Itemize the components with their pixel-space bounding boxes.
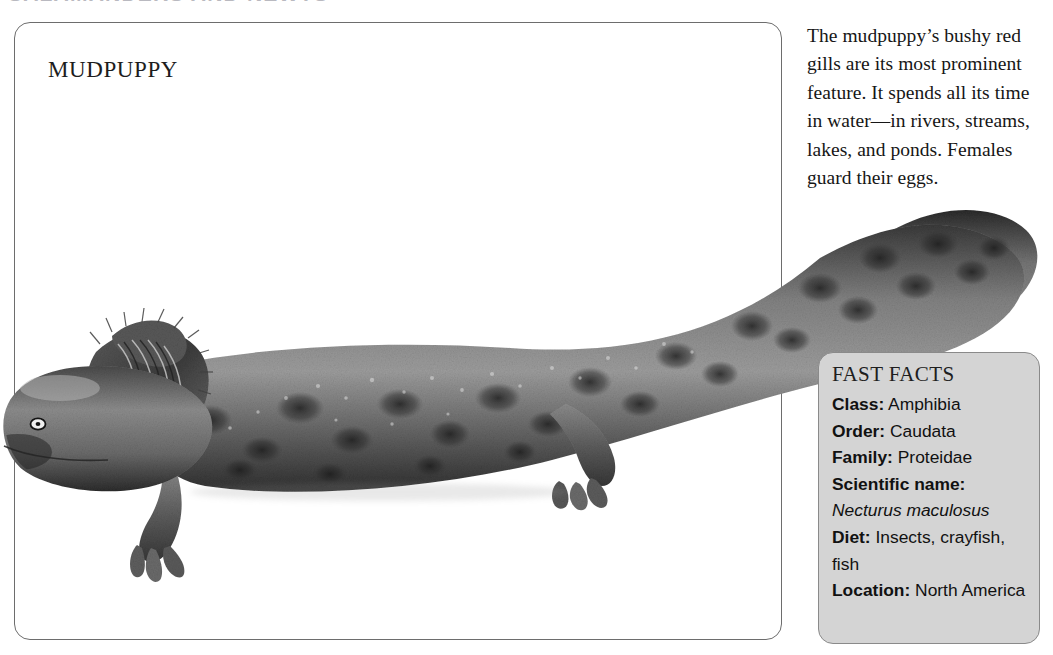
- running-header: SALAMANDERS AND NEWTS: [8, 0, 648, 6]
- fact-row-location: Location: North America: [832, 577, 1039, 604]
- species-card: MUDPUPPY: [14, 22, 782, 640]
- species-description: The mudpuppy’s bushy red gills are its m…: [807, 22, 1049, 192]
- fact-row-scientific-value: Necturus maculosus: [832, 497, 1039, 524]
- fact-row-scientific-name: Scientific name:: [832, 471, 1039, 498]
- fact-label-scientific-name: Scientific name:: [832, 474, 965, 494]
- fact-value-family: Proteidae: [898, 447, 972, 467]
- fact-label-order: Order:: [832, 421, 885, 441]
- page-title: MUDPUPPY: [48, 57, 178, 83]
- fast-facts-panel: FAST FACTS Class: Amphibia Order: Caudat…: [818, 352, 1040, 644]
- fact-row-diet: Diet: Insects, crayfish, fish: [832, 524, 1039, 577]
- fact-row-family: Family: Proteidae: [832, 444, 1039, 471]
- fact-value-class: Amphibia: [888, 394, 961, 414]
- fact-label-class: Class:: [832, 394, 884, 414]
- fact-row-class: Class: Amphibia: [832, 391, 1039, 418]
- fact-label-family: Family:: [832, 447, 893, 467]
- fact-value-scientific-name: Necturus maculosus: [832, 500, 990, 520]
- fact-label-diet: Diet:: [832, 527, 871, 547]
- fact-value-location: North America: [915, 580, 1025, 600]
- fact-label-location: Location:: [832, 580, 910, 600]
- fact-value-order: Caudata: [890, 421, 956, 441]
- fast-facts-title: FAST FACTS: [832, 362, 1039, 387]
- fact-row-order: Order: Caudata: [832, 418, 1039, 445]
